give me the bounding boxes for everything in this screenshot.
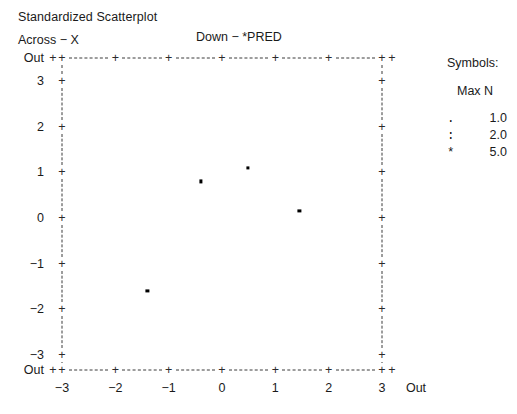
legend-symbol-value: 2.0 — [463, 128, 507, 142]
legend-title: Symbols: — [447, 56, 517, 70]
x-axis-tick-label: 1 — [272, 381, 279, 395]
legend-symbol-glyph: . — [447, 112, 463, 126]
y-axis-tick-left: + — [58, 212, 65, 225]
y-axis-tick-left: + — [58, 120, 65, 133]
right-frame-dash — [382, 65, 383, 74]
bottom-axis-out-tick: + — [388, 364, 395, 377]
legend: Symbols: Max N .1.0:2.0*5.0 — [447, 56, 517, 162]
top-axis-out-tick: + — [388, 52, 395, 65]
y-axis-tick-label: 2 — [8, 120, 44, 134]
top-axis-tick: + — [218, 52, 225, 65]
right-frame-dash — [382, 271, 383, 303]
legend-symbol-value: 1.0 — [463, 111, 507, 125]
right-frame-dash — [382, 316, 383, 348]
x-axis-tick-label: −2 — [108, 381, 122, 395]
x-axis-tick-label: 0 — [219, 381, 226, 395]
bottom-axis-tick: + — [218, 364, 225, 377]
top-axis-tick: + — [112, 52, 119, 65]
top-axis-dash — [176, 58, 215, 59]
left-frame-dash — [62, 316, 63, 348]
legend-rows: .1.0:2.0*5.0 — [447, 111, 517, 162]
x-axis-out-label-right: Out — [406, 381, 426, 395]
y-axis-out-label-bottom: Out — [8, 363, 44, 377]
y-axis-tick-right: + — [378, 349, 385, 362]
y-axis-tick-label: 0 — [8, 211, 44, 225]
y-axis-tick-left: + — [58, 166, 65, 179]
x-axis-tick-label: 2 — [325, 381, 332, 395]
top-axis-tick: + — [272, 52, 279, 65]
right-frame-dash — [382, 134, 383, 166]
y-axis-tick-label: −2 — [8, 302, 44, 316]
bottom-axis-out-tick: + — [49, 364, 56, 377]
data-point — [298, 210, 301, 213]
y-axis-tick-right: + — [378, 166, 385, 179]
left-frame-dash — [62, 362, 63, 363]
top-axis-dash — [69, 58, 108, 59]
top-axis-dash — [336, 58, 375, 59]
left-frame-dash — [62, 179, 63, 211]
top-axis-tick: + — [165, 52, 172, 65]
top-axis-dash — [122, 58, 161, 59]
scatterplot-canvas: ++++++++++++++++++++++++++++++++Out3210−… — [0, 0, 517, 414]
bottom-axis-tick: + — [325, 364, 332, 377]
bottom-axis-tick: + — [112, 364, 119, 377]
top-axis-tick: + — [378, 52, 385, 65]
legend-symbol-glyph: : — [447, 129, 463, 143]
y-axis-out-label-top: Out — [8, 51, 44, 65]
top-axis-dash — [229, 58, 268, 59]
y-axis-tick-right: + — [378, 303, 385, 316]
legend-row: .1.0 — [447, 111, 517, 128]
y-axis-tick-left: + — [58, 349, 65, 362]
bottom-axis-dash — [229, 370, 268, 371]
bottom-axis-dash — [336, 370, 375, 371]
y-axis-tick-right: + — [378, 75, 385, 88]
y-axis-tick-label: 1 — [8, 165, 44, 179]
y-axis-tick-right: + — [378, 120, 385, 133]
bottom-axis-dash — [69, 370, 108, 371]
legend-row: *5.0 — [447, 145, 517, 162]
data-point — [199, 180, 202, 183]
left-frame-dash — [62, 134, 63, 166]
top-axis-tick: + — [325, 52, 332, 65]
right-frame-dash — [382, 362, 383, 363]
legend-subtitle: Max N — [457, 84, 517, 98]
x-axis-tick-label: −3 — [55, 381, 69, 395]
left-frame-dash — [62, 271, 63, 303]
data-point — [246, 166, 249, 169]
y-axis-tick-label: −3 — [8, 348, 44, 362]
y-axis-tick-left: + — [58, 303, 65, 316]
bottom-axis-dash — [122, 370, 161, 371]
y-axis-tick-right: + — [378, 212, 385, 225]
right-frame-dash — [382, 88, 383, 120]
bottom-axis-dash — [176, 370, 215, 371]
y-axis-tick-right: + — [378, 257, 385, 270]
top-axis-out-tick: + — [49, 52, 56, 65]
x-axis-tick-label: 3 — [379, 381, 386, 395]
x-axis-tick-label: −1 — [162, 381, 176, 395]
right-frame-dash — [382, 225, 383, 257]
y-axis-tick-label: −1 — [8, 257, 44, 271]
y-axis-tick-left: + — [58, 257, 65, 270]
left-frame-dash — [62, 225, 63, 257]
legend-row: :2.0 — [447, 128, 517, 145]
bottom-axis-tick: + — [272, 364, 279, 377]
top-axis-dash — [282, 58, 321, 59]
bottom-axis-dash — [282, 370, 321, 371]
left-frame-dash — [62, 88, 63, 120]
left-frame-dash — [62, 65, 63, 74]
legend-symbol-glyph: * — [447, 146, 463, 160]
bottom-axis-tick: + — [165, 364, 172, 377]
legend-symbol-value: 5.0 — [463, 145, 507, 159]
bottom-axis-tick: + — [58, 364, 65, 377]
bottom-axis-tick: + — [378, 364, 385, 377]
top-axis-tick: + — [58, 52, 65, 65]
y-axis-tick-label: 3 — [8, 74, 44, 88]
data-point — [146, 289, 149, 292]
right-frame-dash — [382, 179, 383, 211]
y-axis-tick-left: + — [58, 75, 65, 88]
